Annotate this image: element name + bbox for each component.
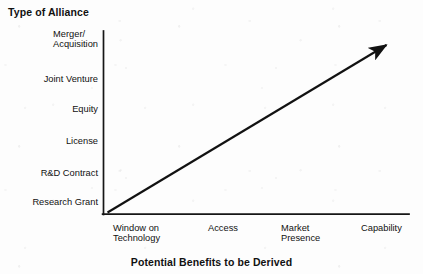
y-axis-title: Type of Alliance	[8, 6, 89, 18]
x-tick-capability-line1: Capability	[361, 224, 402, 234]
diagram-canvas: Type of Alliance Merger/ Acquisition Joi…	[0, 0, 423, 274]
y-tick-license-line1: License	[66, 137, 98, 147]
x-tick-access-line1: Access	[208, 224, 238, 234]
x-tick-window-on-technology: Window on Technology	[113, 224, 160, 244]
x-tick-window-on-technology-line2: Technology	[113, 234, 160, 244]
x-tick-capability: Capability	[361, 224, 402, 234]
x-tick-access: Access	[208, 224, 238, 234]
x-axis-caption: Potential Benefits to be Derived	[0, 256, 423, 268]
x-tick-market-presence-line2: Presence	[281, 234, 320, 244]
y-tick-merger-acquisition: Merger/ Acquisition	[53, 30, 98, 49]
y-tick-equity: Equity	[72, 105, 98, 115]
y-tick-license: License	[66, 137, 98, 147]
y-tick-joint-venture: Joint Venture	[44, 75, 98, 85]
y-tick-research-grant: Research Grant	[32, 198, 98, 208]
y-tick-joint-venture-line1: Joint Venture	[44, 75, 98, 85]
y-tick-equity-line1: Equity	[72, 105, 98, 115]
y-tick-research-grant-line1: Research Grant	[32, 198, 98, 208]
y-tick-rd-contract-line1: R&D Contract	[41, 169, 98, 179]
x-tick-market-presence: Market Presence	[281, 224, 320, 244]
trend-arrow	[108, 45, 387, 213]
y-tick-rd-contract: R&D Contract	[41, 169, 98, 179]
y-tick-merger-acquisition-line2: Acquisition	[53, 40, 98, 50]
